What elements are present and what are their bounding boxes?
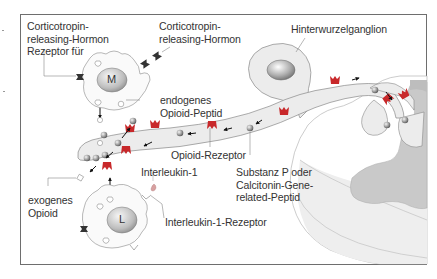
label-il1-receptor: Interleukin-1-Rezeptor	[165, 216, 267, 229]
label-substance-p: Substanz P oder Calcitonin-Gene- related…	[236, 166, 313, 204]
label-crh: Corticotropin- releasing-Hormon	[159, 20, 241, 45]
cell-label-macrophage: M	[107, 73, 116, 86]
label-endogenous-opioid: endogenes Opioid-Peptid	[160, 94, 222, 119]
cell-label-lymphocyte: L	[119, 213, 125, 226]
exogenous-opioid-molecule	[77, 174, 84, 181]
label-exogenous-opioid: exogenes Opioid	[28, 194, 73, 219]
label-crh-receptor: Corticotropin- releasing-Hormon Rezeptor…	[27, 20, 109, 58]
label-opioid-receptor: Opioid-Rezeptor	[171, 149, 246, 162]
label-interleukin-1: Interleukin-1	[141, 166, 197, 179]
lymphocyte-cell	[80, 184, 150, 250]
label-dorsal-root-ganglion: Hinterwurzelganglion	[291, 23, 387, 36]
